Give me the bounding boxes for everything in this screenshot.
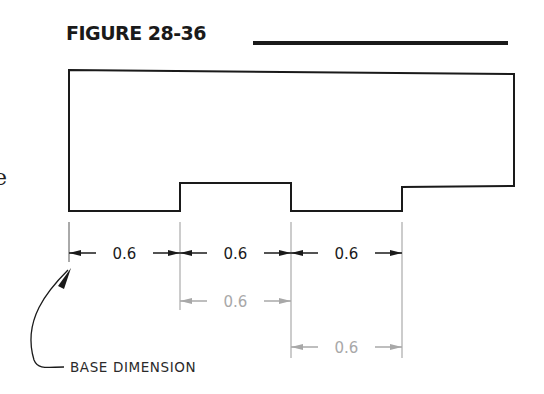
base-dimension-label: BASE DIMENSION bbox=[70, 359, 196, 375]
drawing-canvas: 0.6 0.6 0.6 0.6 0.6 BASE DIMENSION bbox=[0, 0, 544, 394]
reference-dimension-label: 0.6 bbox=[224, 293, 248, 311]
part-outline bbox=[69, 70, 514, 211]
extension-lines bbox=[69, 222, 402, 358]
reference-dimension-label: 0.6 bbox=[335, 339, 359, 357]
dimension-label: 0.6 bbox=[335, 245, 359, 263]
dimension-label: 0.6 bbox=[113, 245, 137, 263]
dimension-label: 0.6 bbox=[224, 245, 248, 263]
